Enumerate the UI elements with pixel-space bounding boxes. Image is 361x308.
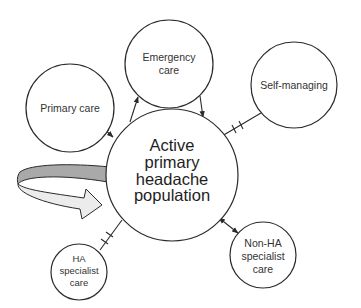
emergency-care-label-line1: Emergency [142,51,196,63]
self-managing-blocked-connector [222,113,261,136]
ha-specialist-label-line1: HA [72,253,86,264]
non-ha-specialist-label-line1: Non-HA [244,237,281,249]
inflow-curved-arrow-icon [17,165,110,219]
node-self-managing: Self-managing [251,42,337,128]
emergency-to-center-arrow [200,96,203,117]
ha-specialist-label-line2: specialist [59,265,98,276]
node-active-primary-headache-population: Active primary headache population [106,109,238,241]
node-non-ha-specialist-care: Non-HA specialist care [230,222,296,288]
node-ha-specialist-care: HA specialist care [51,244,107,300]
non-ha-specialist-label-line3: care [253,263,274,275]
center-label-line4: population [134,186,210,204]
ha-specialist-label-line3: care [70,277,88,288]
node-emergency-care: Emergency care [125,20,213,108]
center-label-line1: Active [150,136,195,154]
non-ha-specialist-connector [219,218,238,233]
primary-care-label: Primary care [40,102,100,114]
ha-specialist-blocked-connector [100,220,122,250]
care-flow-diagram: Primary care Emergency care Self-managin… [0,0,361,308]
node-primary-care: Primary care [26,64,114,152]
emergency-care-label-line2: care [159,64,180,76]
center-to-emergency-arrow [130,97,138,122]
center-label-line2: primary [144,153,200,171]
self-managing-label: Self-managing [260,79,328,91]
non-ha-specialist-label-line2: specialist [241,250,284,262]
